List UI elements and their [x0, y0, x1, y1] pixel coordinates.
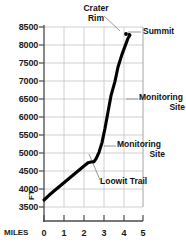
annotation-loowit-trail: Loowit Trail	[100, 177, 147, 187]
x-tick-label-2: 2	[77, 228, 91, 238]
y-tick-label-4500: 4500	[4, 166, 38, 176]
y-tick-label-6500: 6500	[4, 94, 38, 104]
x-tick-label-5: 5	[136, 228, 150, 238]
x-tick-label-4: 4	[117, 228, 131, 238]
y-tick-label-6000: 6000	[4, 112, 38, 122]
x-tick-label-3: 3	[97, 228, 111, 238]
x-axis-ticks	[44, 215, 143, 221]
x-tick-label-1: 1	[57, 228, 71, 238]
y-tick-label-5500: 5500	[4, 130, 38, 140]
y-tick-label-8000: 8000	[4, 40, 38, 50]
annotation-summit: Summit	[143, 27, 174, 37]
y-tick-label-7500: 7500	[4, 58, 38, 68]
annotation-monitoring-site-upper: Monitoring Site	[139, 93, 185, 112]
x-axis-unit-label: MILES	[4, 228, 28, 237]
annotation-monitoring-site-upper-line2: Site	[139, 103, 185, 113]
annotation-monitoring-site-lower: Monitoring Site	[117, 140, 165, 159]
y-tick-label-3500: 3500	[4, 202, 38, 212]
annotation-crater-rim: Crater Rim	[70, 4, 122, 23]
y-axis-ticks	[39, 27, 44, 207]
elevation-profile-chart: 8500 8000 7500 7000 6500 6000 5500 5000 …	[0, 0, 186, 252]
annotation-monitoring-site-lower-line2: Site	[117, 150, 165, 160]
x-tick-label-0: 0	[37, 228, 51, 238]
y-tick-label-8500: 8500	[4, 22, 38, 32]
annotation-crater-rim-line2: Rim	[70, 14, 122, 24]
y-tick-label-7000: 7000	[4, 76, 38, 86]
y-tick-label-5000: 5000	[4, 148, 38, 158]
chart-canvas	[0, 0, 186, 252]
summit-point-marker	[124, 32, 128, 36]
y-axis-unit-label: FT	[27, 190, 36, 200]
